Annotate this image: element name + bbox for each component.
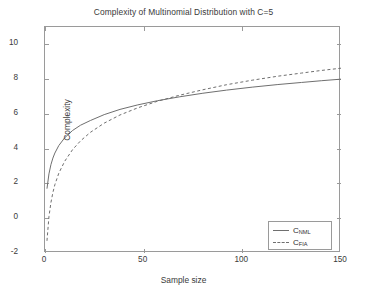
legend-label-cfia-sub: FIA bbox=[299, 241, 308, 247]
y-tick-label: 0 bbox=[13, 213, 18, 221]
plot-area: Complexity bbox=[44, 26, 340, 252]
x-axis-label: Sample size bbox=[0, 275, 367, 285]
y-tick-label: 6 bbox=[13, 109, 18, 117]
legend-label-cnml-main: C bbox=[293, 226, 299, 235]
axis-ticks bbox=[45, 27, 341, 253]
y-tick-label: 2 bbox=[13, 178, 18, 186]
legend-label-cfia-main: C bbox=[293, 238, 299, 247]
x-tick-label: 100 bbox=[226, 256, 256, 264]
figure-canvas: Complexity of Multinomial Distribution w… bbox=[0, 0, 367, 296]
series-line-c-fia bbox=[47, 68, 341, 241]
y-tick-label: 8 bbox=[13, 74, 18, 82]
x-tick-label: 150 bbox=[325, 256, 355, 264]
legend-label-cnml-sub: NML bbox=[299, 229, 311, 235]
legend-label-cfia: CFIA bbox=[293, 238, 307, 247]
y-tick-label: 4 bbox=[13, 144, 18, 152]
x-tick-label: 0 bbox=[29, 256, 59, 264]
y-tick-label: 10 bbox=[9, 39, 18, 47]
y-axis-label: Complexity bbox=[62, 60, 72, 180]
chart-title: Complexity of Multinomial Distribution w… bbox=[0, 7, 367, 17]
series-line-c-nml bbox=[47, 79, 341, 189]
legend-line-solid-icon bbox=[273, 230, 289, 231]
legend-label-cnml: CNML bbox=[293, 226, 311, 235]
y-tick-label: -2 bbox=[11, 248, 18, 256]
plot-svg bbox=[45, 27, 341, 253]
chart-legend: CNML CFIA bbox=[268, 221, 332, 250]
legend-item-cnml[interactable]: CNML bbox=[269, 224, 331, 236]
legend-line-dashed-icon bbox=[273, 242, 289, 243]
data-series-group bbox=[47, 68, 341, 241]
x-tick-label: 50 bbox=[128, 256, 158, 264]
legend-item-cfia[interactable]: CFIA bbox=[269, 236, 331, 248]
